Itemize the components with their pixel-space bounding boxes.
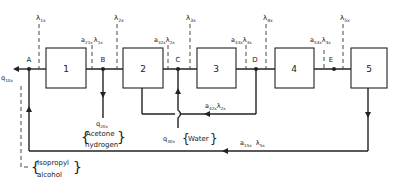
feed-q20-line1: Acetone — [86, 130, 115, 138]
feed-q20-arrow-icon — [100, 92, 106, 98]
acetone-brace-right: } — [117, 129, 126, 145]
unit-5-label: 5 — [366, 64, 372, 74]
isopropyl-line2: alcohol — [37, 171, 62, 179]
feed-q10-label: q10x — [1, 74, 13, 83]
q10-outlet-arrow-icon — [13, 66, 19, 72]
lambda-3x-label: λ3x — [186, 14, 196, 23]
feed-q30-label: q30x — [163, 135, 175, 144]
flow-a54-label: a54xλ4x — [310, 36, 331, 45]
recycle-up-arrow-icon — [26, 106, 32, 112]
lambda-5x-label: λ5x — [340, 14, 350, 23]
feed-q20-line2: hydrogen — [85, 141, 118, 149]
recycle-down-arrow-icon — [365, 112, 371, 118]
node-e-label: E — [329, 56, 333, 64]
unit-2-label: 2 — [140, 64, 146, 74]
isopropyl-brace-right: } — [73, 159, 82, 175]
recycle-left-arrow-icon — [222, 148, 228, 154]
unit-4-label: 4 — [291, 64, 297, 74]
flow-a43-label: a43xλ3x — [231, 36, 252, 45]
lambda-2x-label: λ2x — [114, 14, 124, 23]
flow-a21-label: a21xλ1x — [81, 36, 103, 45]
flow-a15-label: a15xλ5x — [240, 139, 265, 148]
isopropyl-line1: Isopropyl — [37, 159, 69, 167]
recycle-42-arrow-icon — [204, 111, 210, 117]
flow-a42-label: a42xλ2x — [205, 102, 226, 111]
feed-q30-line — [178, 69, 181, 128]
unit-3-label: 3 — [213, 64, 219, 74]
node-d-label: D — [252, 56, 257, 64]
node-b-label: B — [101, 56, 106, 64]
node-c-label: C — [176, 56, 181, 64]
feed-q20-label: q20x — [96, 120, 108, 129]
process-flow-diagram: 1 2 3 4 5 A B C D E λ1x λ2x λ3x λ4x λ5x … — [0, 0, 397, 189]
node-a-label: A — [27, 56, 32, 64]
unit-1-label: 1 — [63, 64, 69, 74]
feed-q30-arrow-icon — [175, 88, 181, 94]
flow-a32-label: a32xλ2x — [154, 36, 175, 45]
water-brace-right: } — [210, 132, 218, 146]
lambda-1x-label: λ1x — [36, 14, 46, 23]
feed-q30-text: Water — [188, 135, 209, 143]
lambda-4x-label: λ4x — [263, 14, 273, 23]
